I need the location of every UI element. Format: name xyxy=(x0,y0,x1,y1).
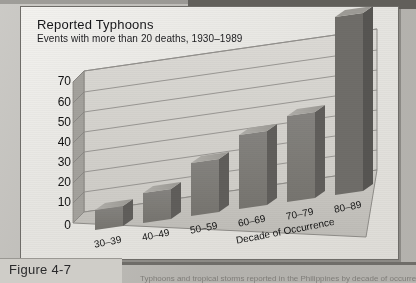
figure-caption-text: Typhoons and tropical storms reported in… xyxy=(140,274,416,283)
bar-70-79 xyxy=(287,105,325,202)
y-tick-70: 70 xyxy=(47,74,71,88)
figure-caption-label: Figure 4-7 xyxy=(9,262,71,277)
y-tick-40: 40 xyxy=(47,135,71,149)
y-tick-60: 60 xyxy=(47,95,71,109)
bar-chart-plot: 70 60 50 40 30 20 10 0 No. of Events Rep… xyxy=(21,7,398,259)
y-tick-10: 10 xyxy=(47,195,71,209)
bar-50-59 xyxy=(191,152,229,216)
y-tick-0: 0 xyxy=(47,218,71,232)
scan-edge-light xyxy=(0,0,188,4)
y-tick-50: 50 xyxy=(47,115,71,129)
caption-rule xyxy=(122,262,416,265)
figure-panel: Reported Typhoons Events with more than … xyxy=(20,6,399,260)
y-tick-30: 30 xyxy=(47,155,71,169)
bar-60-69 xyxy=(239,124,277,209)
bar-80-89 xyxy=(335,7,373,195)
y-tick-20: 20 xyxy=(47,175,71,189)
